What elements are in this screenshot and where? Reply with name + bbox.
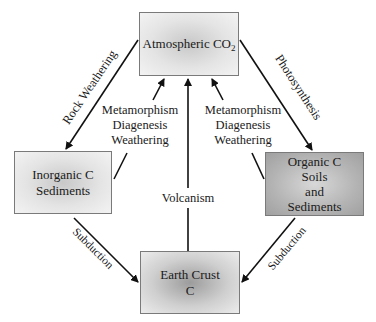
- left-process-diagenesis: Diagenesis: [95, 118, 185, 133]
- right-process-arrow: [212, 79, 223, 100]
- organic-c-line4: Sediments: [287, 199, 341, 214]
- organic-c-box: Organic C Soils and Sediments: [265, 152, 364, 216]
- right-process-weathering: Weathering: [198, 133, 288, 148]
- earth-crust-box: Earth Crust C: [140, 251, 240, 314]
- left-process-arrow: [153, 79, 164, 100]
- left-process-line: [114, 153, 127, 179]
- earth-crust-line1: Earth Crust: [160, 267, 220, 283]
- right-process-metamorphism: Metamorphism: [198, 103, 288, 118]
- inorganic-c-line1: Inorganic C: [32, 167, 94, 183]
- organic-c-line1: Organic C: [288, 154, 342, 169]
- inorganic-c-line2: Sediments: [36, 183, 90, 199]
- organic-c-line2: Soils: [301, 169, 327, 184]
- earth-crust-line2: C: [186, 283, 195, 299]
- right-processes-label: Metamorphism Diagenesis Weathering: [198, 103, 288, 148]
- inorganic-c-box: Inorganic C Sediments: [14, 151, 112, 214]
- right-process-diagenesis: Diagenesis: [198, 118, 288, 133]
- atmospheric-co2-label: Atmospheric CO2: [143, 36, 236, 52]
- left-processes-label: Metamorphism Diagenesis Weathering: [95, 103, 185, 148]
- right-process-line: [252, 153, 264, 179]
- organic-c-line3: and: [305, 184, 324, 199]
- volcanism-label: Volcanism: [148, 191, 228, 206]
- left-process-metamorphism: Metamorphism: [95, 103, 185, 118]
- left-process-weathering: Weathering: [95, 133, 185, 148]
- atmospheric-co2-box: Atmospheric CO2: [139, 12, 239, 76]
